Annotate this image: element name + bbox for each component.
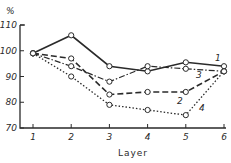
data-point-marker [221, 64, 226, 69]
data-point-marker [107, 92, 112, 97]
data-point-marker [145, 107, 150, 112]
data-point-marker [30, 51, 35, 56]
x-tick-label: 5 [183, 132, 189, 142]
data-point-marker [145, 69, 150, 74]
x-axis-ticks: 123456 [30, 124, 227, 142]
data-point-marker [145, 64, 150, 69]
data-point-marker [107, 64, 112, 69]
x-tick-label: 2 [68, 132, 74, 142]
y-tick-label: 90 [6, 72, 18, 82]
data-point-marker [69, 33, 74, 38]
x-axis-title: Layer [118, 148, 148, 158]
data-point-marker [183, 113, 188, 118]
y-tick-label: 80 [6, 97, 18, 107]
data-point-marker [145, 89, 150, 94]
series-label-2: 2 [177, 96, 183, 106]
data-point-marker [69, 64, 74, 69]
data-point-marker [69, 74, 74, 79]
data-point-marker [107, 102, 112, 107]
x-tick-label: 6 [221, 132, 227, 142]
x-tick-label: 4 [145, 132, 151, 142]
data-point-marker [221, 69, 226, 74]
series-label-1: 1 [215, 53, 221, 63]
data-point-marker [183, 60, 188, 65]
series-label-4: 4 [199, 103, 205, 113]
y-tick-label: 70 [6, 123, 18, 133]
series-1 [33, 35, 224, 71]
x-tick-label: 3 [107, 132, 113, 142]
y-axis-title: % [6, 6, 15, 16]
data-point-marker [183, 89, 188, 94]
data-point-marker [183, 66, 188, 71]
x-tick-label: 1 [30, 132, 36, 142]
line-chart: % 110100908070 123456 1234 Layer [0, 0, 231, 163]
y-tick-label: 110 [0, 20, 17, 30]
y-tick-label: 100 [0, 46, 17, 56]
data-point-marker [107, 79, 112, 84]
data-point-marker [69, 56, 74, 61]
series-label-3: 3 [196, 70, 202, 80]
